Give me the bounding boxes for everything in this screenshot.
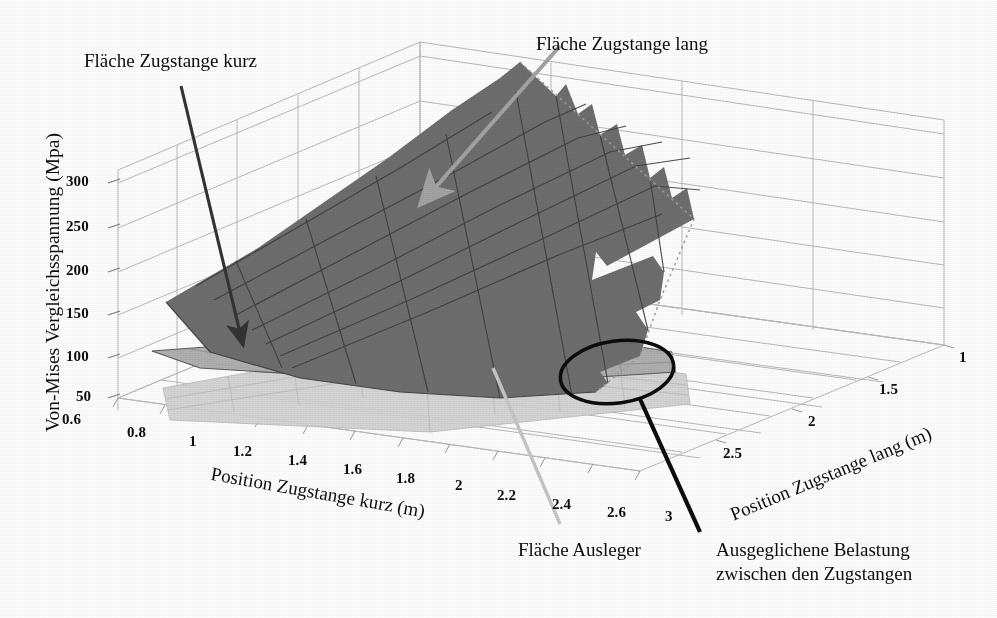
annotation-flaeche-zugstange-lang: Fläche Zugstange lang: [536, 33, 708, 54]
x-tick-1-4: 1.4: [288, 452, 307, 469]
x-tick-2-6: 2.6: [607, 504, 626, 521]
leader-flaeche-zugstange-kurz: [181, 86, 243, 345]
y-tick-2-5: 2.5: [723, 445, 742, 462]
x-tick-1-2: 1.2: [233, 443, 252, 460]
x-tick-1: 1: [189, 433, 197, 450]
z-tick-100: 100: [66, 348, 89, 365]
y-tick-2: 2: [808, 413, 816, 430]
annotation-ausgeglichene-belastung-line2: zwischen den Zugstangen: [716, 563, 912, 584]
z-tick-200: 200: [66, 262, 89, 279]
y-tick-1: 1: [959, 349, 967, 366]
y-tick-1-5: 1.5: [879, 381, 898, 398]
annotation-leaders-layer: [0, 0, 997, 618]
x-tick-1-6: 1.6: [343, 461, 362, 478]
leader-flaeche-zugstange-lang: [420, 46, 560, 205]
z-tick-50: 50: [76, 388, 91, 405]
z-axis-title: Von-Mises Vergleichsspannung (Mpa): [42, 133, 64, 432]
x-tick-1-8: 1.8: [396, 470, 415, 487]
x-tick-0-8: 0.8: [127, 424, 146, 441]
x-tick-2-4: 2.4: [552, 496, 571, 513]
z-tick-150: 150: [66, 305, 89, 322]
x-tick-2: 2: [455, 477, 463, 494]
annotation-flaeche-ausleger: Fläche Ausleger: [518, 539, 641, 560]
x-tick-3: 3: [665, 508, 673, 525]
surface-plot-figure: Von-Mises Vergleichsspannung (Mpa) 300 2…: [0, 0, 997, 618]
annotation-flaeche-zugstange-kurz: Fläche Zugstange kurz: [84, 50, 257, 71]
annotation-ausgeglichene-belastung-line1: Ausgeglichene Belastung: [716, 539, 910, 560]
z-tick-300: 300: [66, 173, 89, 190]
z-tick-250: 250: [66, 218, 89, 235]
x-tick-0-6: 0.6: [62, 411, 81, 428]
x-tick-2-2: 2.2: [497, 487, 516, 504]
highlight-ellipse: [556, 333, 678, 410]
